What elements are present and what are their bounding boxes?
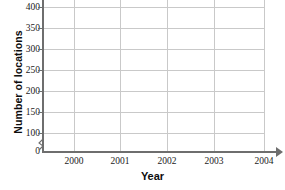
- gridline-horizontal: [43, 49, 265, 50]
- y-axis-line: [42, 0, 44, 153]
- gridline-vertical: [264, 0, 265, 152]
- y-tick-label: 400: [0, 3, 40, 13]
- x-tick-label: 2001: [100, 156, 140, 166]
- x-axis-title: Year: [40, 170, 265, 182]
- plot-area: [43, 0, 265, 152]
- y-tick-label: 200: [0, 87, 40, 97]
- gridline-vertical: [214, 0, 215, 152]
- x-tick-label: 2002: [147, 156, 187, 166]
- gridline-horizontal: [43, 7, 265, 8]
- chart-container: Number of locations 400 350 300 250 200 …: [0, 0, 285, 190]
- gridline-horizontal: [43, 28, 265, 29]
- x-tick-label: 2000: [54, 156, 94, 166]
- gridline-horizontal: [43, 133, 265, 134]
- y-axis-tick-labels: 400 350 300 250 200 150 100 0: [0, 0, 40, 160]
- x-axis-line: [42, 151, 278, 153]
- x-tick-label: 2003: [194, 156, 234, 166]
- y-tick-label: 150: [0, 108, 40, 118]
- x-tick-label: 2004: [244, 156, 284, 166]
- gridline-vertical: [74, 0, 75, 152]
- y-tick-label: 250: [0, 66, 40, 76]
- y-tick-label: 350: [0, 24, 40, 34]
- gridline-vertical: [120, 0, 121, 152]
- y-tick-label: 100: [0, 129, 40, 139]
- y-tick-label: 300: [0, 45, 40, 55]
- gridline-horizontal: [43, 112, 265, 113]
- axis-break-icon: [38, 139, 48, 151]
- gridline-vertical: [167, 0, 168, 152]
- gridline-horizontal: [43, 70, 265, 71]
- y-tick-label: 0: [0, 147, 40, 157]
- gridline-horizontal: [43, 91, 265, 92]
